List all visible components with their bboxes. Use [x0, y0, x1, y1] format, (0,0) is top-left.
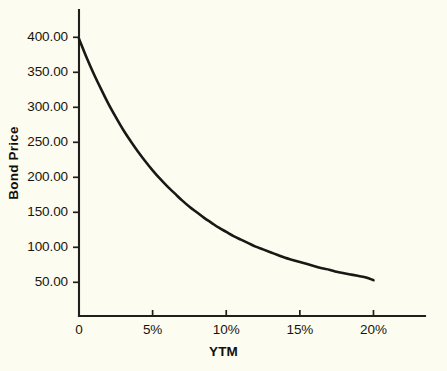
chart-plot-area — [0, 0, 447, 371]
x-axis-title: YTM — [0, 344, 447, 359]
bond-price-chart: 400.00350.00300.00250.00200.00150.00100.… — [0, 0, 447, 371]
y-tick-label: 350.00 — [0, 64, 68, 79]
y-axis-title-wrapper: Bond Price — [2, 108, 24, 218]
axes-group — [79, 10, 425, 316]
bond-price-curve — [79, 39, 373, 281]
y-tick-label: 400.00 — [0, 29, 68, 44]
y-axis-title: Bond Price — [6, 126, 21, 199]
x-tick-label: 5% — [123, 322, 183, 337]
y-tick-label: 50.00 — [0, 274, 68, 289]
x-tick-label: 20% — [343, 322, 403, 337]
x-tick-label: 0 — [49, 322, 109, 337]
x-tick-label: 15% — [270, 322, 330, 337]
data-series-group — [79, 39, 373, 281]
y-tick-label: 100.00 — [0, 239, 68, 254]
x-tick-label: 10% — [196, 322, 256, 337]
